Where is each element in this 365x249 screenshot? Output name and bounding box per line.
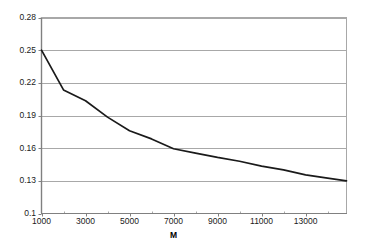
y-tick-label: 0.28 [4,13,36,22]
x-tick-label: 11000 [240,217,284,226]
plot-area [0,0,365,249]
x-tick-label: 13000 [284,217,328,226]
y-tick-label: 0.13 [4,176,36,185]
y-tick-label: 0.22 [4,78,36,87]
y-tick-label: 0.19 [4,111,36,120]
line-chart: 0.10.130.160.190.220.250.28 100030005000… [0,0,365,249]
x-axis-title: M [154,230,194,240]
x-tick-label: 3000 [64,217,108,226]
x-tick-label: 9000 [196,217,240,226]
x-tick-label: 1000 [20,217,64,226]
gridlines [42,19,347,182]
x-tick-label: 5000 [108,217,152,226]
y-tick-label: 0.16 [4,144,36,153]
y-tick-label: 0.25 [4,46,36,55]
x-tick-label: 7000 [152,217,196,226]
series-line [42,50,347,181]
